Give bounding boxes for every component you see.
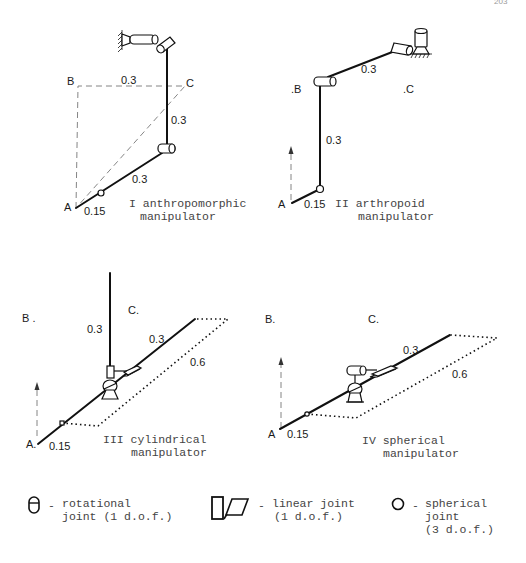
point-a-label: A <box>268 428 276 440</box>
legend-line-2: joint <box>425 510 460 523</box>
dim-base-label: 0.15 <box>49 440 70 452</box>
rotational-joint-icon <box>347 366 366 375</box>
caption-line-2: manipulator <box>140 210 216 223</box>
dim-base-label: 0.15 <box>287 428 308 440</box>
point-c-label: .C <box>403 83 414 95</box>
legend-item-spherical: - spherical joint (3 d.o.f.) <box>393 497 495 536</box>
rotational-joint-icon <box>29 497 39 513</box>
caption-line-2: manipulator <box>131 446 207 459</box>
spherical-joint-icon <box>98 190 104 196</box>
dim-bc-label: 0.3 <box>121 74 136 86</box>
rotational-joint-icon <box>102 380 118 399</box>
legend-item-linear: - linear joint (1 d.o.f.) <box>212 497 355 523</box>
point-c-label: C. <box>368 313 379 325</box>
legend-dash: - <box>412 499 419 512</box>
arrow-head-icon <box>35 382 40 390</box>
linear-joint-icon <box>366 366 397 377</box>
point-b-label: .B <box>291 83 301 95</box>
linear-joint-icon <box>114 366 141 376</box>
rotational-joint-icon <box>415 29 427 48</box>
caption-line-2: manipulator <box>358 210 434 223</box>
dim-arm-label: 0.3 <box>403 344 418 356</box>
dim-stroke-label: 0.6 <box>452 368 467 380</box>
dim-vertical-label: 0.3 <box>87 323 102 335</box>
caption-line-1: IV spherical <box>362 434 445 447</box>
point-a-label: A. <box>26 438 36 450</box>
linear-joint-icon <box>212 497 248 519</box>
diagram-anthropomorphic: A B C 0.3 0.3 0.3 0.15 I anthropomorphic… <box>64 30 246 223</box>
dim-stroke-label: 0.6 <box>190 356 205 368</box>
arrow-head-icon <box>279 357 284 365</box>
caption-line-1: II arthropoid <box>335 197 425 210</box>
point-c-label: C <box>186 77 194 89</box>
dim-base-label: 0.15 <box>84 205 105 217</box>
legend-line-2: (1 d.o.f.) <box>274 510 343 523</box>
legend-dash: - <box>258 499 265 512</box>
point-c-label: C. <box>128 304 139 316</box>
point-b-label: B. <box>265 313 275 325</box>
point-b-label: B . <box>22 312 35 324</box>
legend-line-2: joint (1 d.o.f.) <box>62 510 172 523</box>
spherical-joint-icon <box>60 421 64 425</box>
rotational-joint-icon <box>130 35 158 44</box>
workspace-boundary <box>62 319 228 426</box>
point-b-label: B <box>67 75 74 87</box>
legend-dash: - <box>48 499 55 512</box>
fixed-base-icon <box>410 47 432 58</box>
dim-arm-label: 0.3 <box>149 333 164 345</box>
legend: - rotational joint (1 d.o.f.) - linear j… <box>29 497 494 536</box>
spherical-joint-icon <box>305 412 309 416</box>
caption-line-1: I anthropomorphic <box>129 197 246 210</box>
legend-line-3: (3 d.o.f.) <box>425 523 494 536</box>
dim-base-label: 0.15 <box>304 198 325 210</box>
rotational-joint-icon <box>314 77 336 86</box>
legend-line-1: linear joint <box>272 497 355 510</box>
workspace-boundary <box>307 335 497 418</box>
spherical-joint-icon <box>317 186 324 193</box>
dim-link2-label: 0.3 <box>171 114 186 126</box>
point-a-label: A <box>278 198 286 210</box>
point-a-label: A <box>64 201 72 213</box>
dim-vertical-label: 0.3 <box>326 134 341 146</box>
legend-line-1: spherical <box>425 497 487 510</box>
dim-upper-arm-label: 0.3 <box>361 63 376 75</box>
page-number: 203 <box>494 0 508 6</box>
caption-line-1: III cylindrical <box>103 433 207 446</box>
caption-line-2: manipulator <box>383 447 459 460</box>
arrow-head-icon <box>289 146 294 154</box>
diagram-cylindrical: A. B . C. 0.3 0.3 0.6 0.15 III cylindric… <box>22 273 228 459</box>
legend-item-rotational: - rotational joint (1 d.o.f.) <box>29 497 172 523</box>
linear-joint-icon <box>107 366 114 378</box>
legend-line-1: rotational <box>62 497 131 510</box>
spherical-joint-icon <box>393 499 404 510</box>
rotational-joint-icon <box>158 144 175 153</box>
diagram-arthropoid: A .B .C 0.3 0.3 0.15 II arthropoid manip… <box>278 29 434 224</box>
manipulator-figure: 203 A B C <box>0 0 526 563</box>
dim-link1-label: 0.3 <box>132 173 147 185</box>
rotational-joint-icon <box>346 383 364 402</box>
fixed-base-icon <box>118 30 130 52</box>
diagram-spherical: A B. C. 0.3 0.6 0.15 IV spherical manipu… <box>265 313 497 460</box>
